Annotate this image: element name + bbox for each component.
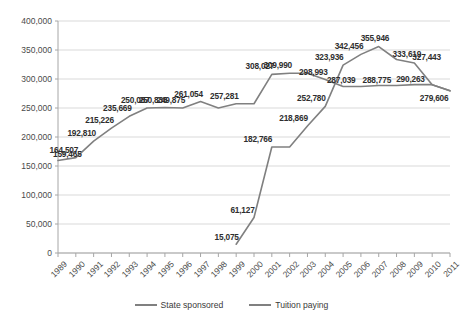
legend-swatch-tuition-paying: [249, 304, 271, 306]
series-line-state-sponsored: [58, 73, 450, 160]
data-label: 192,810: [67, 128, 96, 138]
series-lines: [58, 47, 450, 245]
data-label: 298,993: [299, 67, 328, 77]
y-tick-label: 50,000: [2, 219, 52, 229]
data-label: 61,127: [230, 205, 254, 215]
legend-label-tuition-paying: Tuition paying: [275, 300, 328, 310]
x-axis-ticks: [58, 253, 450, 257]
data-label: 164,507: [50, 145, 79, 155]
data-label: 15,075: [215, 232, 239, 242]
data-label: 182,766: [244, 134, 273, 144]
legend-item-tuition-paying[interactable]: Tuition paying: [249, 300, 328, 310]
line-chart: 400,000350,000300,000250,000200,000150,0…: [0, 0, 463, 326]
data-label: 327,443: [412, 52, 441, 62]
y-tick-label: 200,000: [2, 132, 52, 142]
data-label: 215,226: [85, 115, 114, 125]
data-label: 287,039: [327, 75, 356, 85]
data-label: 290,263: [396, 74, 425, 84]
data-label: 288,775: [363, 75, 392, 85]
data-label: 218,869: [279, 113, 308, 123]
legend-label-state-sponsored: State sponsored: [161, 300, 224, 310]
data-label: 342,456: [335, 41, 364, 51]
y-tick-label: 0: [2, 248, 52, 258]
data-label: 252,780: [297, 93, 326, 103]
chart-legend: State sponsored Tuition paying: [0, 300, 463, 310]
y-tick-label: 300,000: [2, 74, 52, 84]
data-label: 261,054: [174, 89, 203, 99]
data-label: 257,281: [210, 91, 239, 101]
legend-swatch-state-sponsored: [135, 304, 157, 306]
y-tick-label: 150,000: [2, 161, 52, 171]
y-tick-label: 250,000: [2, 103, 52, 113]
data-label: 355,946: [361, 33, 390, 43]
data-label: 323,936: [315, 52, 344, 62]
data-label: 309,990: [263, 60, 292, 70]
data-label: 279,606: [420, 93, 449, 103]
legend-item-state-sponsored[interactable]: State sponsored: [135, 300, 224, 310]
y-tick-label: 350,000: [2, 45, 52, 55]
y-tick-label: 400,000: [2, 16, 52, 26]
y-tick-label: 100,000: [2, 190, 52, 200]
